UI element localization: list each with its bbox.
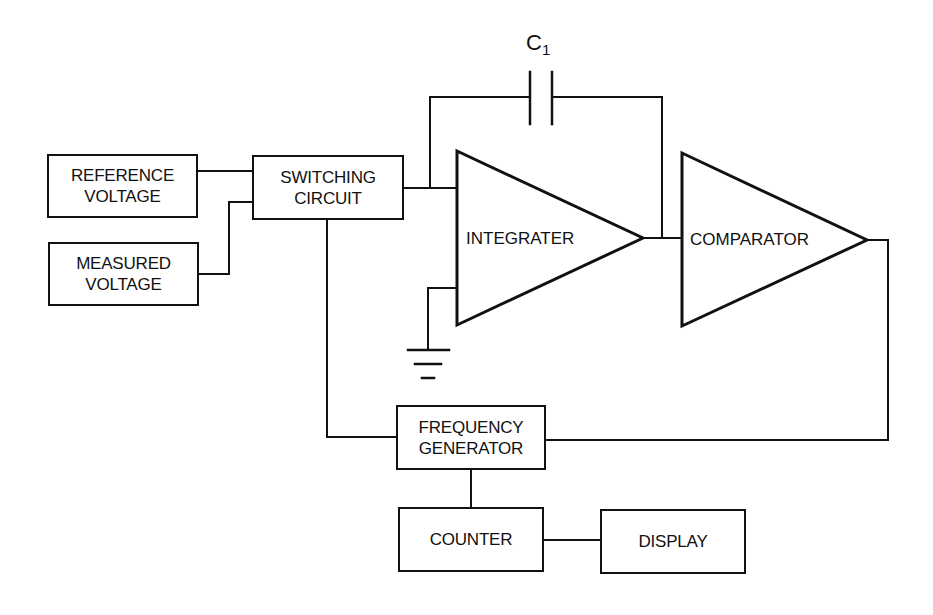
display-label: DISPLAY [638, 531, 707, 552]
counter-block: COUNTER [398, 507, 544, 572]
display-block: DISPLAY [600, 509, 746, 574]
capacitor-subscript: 1 [542, 41, 550, 58]
reference-voltage-line2: VOLTAGE [84, 186, 160, 207]
measured-voltage-line2: VOLTAGE [85, 274, 161, 295]
capacitor-label: C1 [526, 30, 550, 58]
reference-voltage-line1: REFERENCE [71, 165, 174, 186]
capacitor-symbol: C [526, 30, 542, 55]
frequency-generator-line2: GENERATOR [419, 438, 523, 459]
integrater-label: INTEGRATER [466, 229, 574, 249]
measured-voltage-line1: MEASURED [76, 253, 171, 274]
frequency-generator-block: FREQUENCY GENERATOR [396, 405, 546, 470]
switching-circuit-block: SWITCHING CIRCUIT [252, 155, 404, 220]
wire-ground [428, 288, 457, 350]
reference-voltage-block: REFERENCE VOLTAGE [47, 154, 198, 218]
wire-measured-to-switching [198, 202, 253, 274]
frequency-generator-line1: FREQUENCY [419, 417, 524, 438]
counter-label: COUNTER [430, 529, 513, 550]
measured-voltage-block: MEASURED VOLTAGE [48, 242, 199, 306]
switching-circuit-line1: SWITCHING [280, 167, 375, 188]
switching-circuit-line2: CIRCUIT [294, 188, 362, 209]
wire-frequency-generator-to-switching [327, 219, 397, 437]
comparator-label: COMPARATOR [690, 230, 809, 250]
